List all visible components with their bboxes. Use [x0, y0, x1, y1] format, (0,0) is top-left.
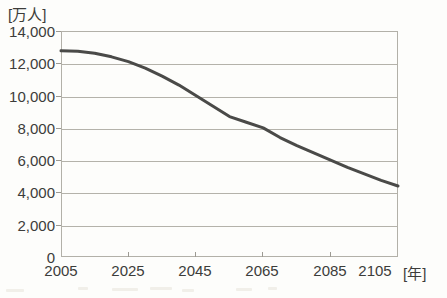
xtickmark-2065 [262, 252, 263, 257]
ytick-label-10000: 10,000 [0, 87, 55, 104]
xtick-label-2045: 2045 [178, 262, 211, 279]
ytick-label-14000: 14,000 [0, 23, 55, 40]
population-projection-chart: [万人] 14,000 12,000 10,000 8,000 6,000 4,… [0, 0, 447, 298]
scan-artifact-band [0, 283, 447, 298]
xtickmark-2045 [195, 252, 196, 257]
xtickmark-2085 [330, 252, 331, 257]
xtick-label-2105: 2105 [358, 262, 391, 279]
y-axis-tick-labels: 14,000 12,000 10,000 8,000 6,000 4,000 2… [0, 0, 447, 298]
xtickmark-2025 [128, 252, 129, 257]
ytick-label-8000: 8,000 [0, 119, 55, 136]
ytick-label-2000: 2,000 [0, 216, 55, 233]
xtick-label-2005: 2005 [44, 262, 77, 279]
xtick-label-2085: 2085 [313, 262, 346, 279]
xtick-label-2025: 2025 [111, 262, 144, 279]
x-axis-unit-label: [年] [403, 262, 426, 283]
ytick-label-6000: 6,000 [0, 152, 55, 169]
ytick-label-12000: 12,000 [0, 55, 55, 72]
xtick-label-2065: 2065 [245, 262, 278, 279]
ytick-label-4000: 4,000 [0, 184, 55, 201]
